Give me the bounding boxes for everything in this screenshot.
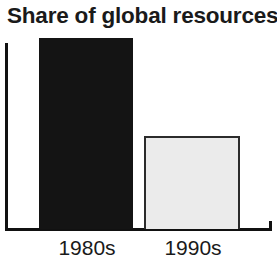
x-tick-label-1980s: 1980s bbox=[37, 234, 137, 262]
bar-1980s bbox=[39, 38, 133, 229]
x-tick-label-1990s: 1990s bbox=[143, 234, 243, 262]
bar-chart-figure: Share of global resources 1980s 1990s bbox=[0, 0, 277, 269]
bar-1990s bbox=[144, 136, 240, 229]
plot-area: 1980s 1990s bbox=[0, 0, 277, 269]
x-axis-end-tick bbox=[269, 221, 272, 229]
y-axis-line bbox=[5, 43, 8, 231]
